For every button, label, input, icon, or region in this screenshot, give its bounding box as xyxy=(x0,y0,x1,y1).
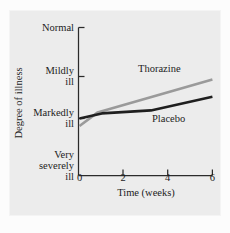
y-label-very-severely-ill-line1: Very xyxy=(54,149,75,160)
y-label-mildly-ill-line1: Mildly xyxy=(45,65,74,76)
y-label-mildly-ill-line2: ill xyxy=(65,76,74,87)
x-tick-label-4: 4 xyxy=(165,172,171,183)
series-line-thorazine xyxy=(80,80,213,127)
y-label-very-severely-ill-line3: ill xyxy=(65,171,74,182)
x-tick-label-6: 6 xyxy=(210,172,215,183)
x-axis-title: Time (weeks) xyxy=(117,187,175,199)
x-tick-label-0: 0 xyxy=(77,172,82,183)
y-axis-title: Degree of illness xyxy=(13,67,24,138)
y-label-very-severely-ill-line2: severely xyxy=(39,160,75,171)
series-line-placebo xyxy=(80,97,213,119)
line-chart: Normal Mildly ill Markedly ill Very seve… xyxy=(0,0,230,233)
series-label-thorazine: Thorazine xyxy=(138,63,181,74)
figure: Normal Mildly ill Markedly ill Very seve… xyxy=(0,0,230,233)
y-label-markedly-ill-line1: Markedly xyxy=(33,107,75,118)
y-label-normal: Normal xyxy=(42,22,74,33)
x-tick-label-2: 2 xyxy=(120,172,125,183)
series-label-placebo: Placebo xyxy=(152,113,185,124)
y-label-markedly-ill-line2: ill xyxy=(65,118,74,129)
